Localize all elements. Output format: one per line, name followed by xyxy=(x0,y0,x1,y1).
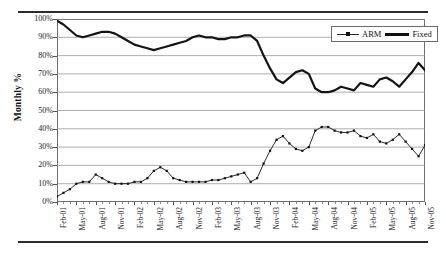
x-minor-tick-mark xyxy=(419,202,420,204)
y-tick-mark xyxy=(53,74,57,75)
x-tick-mark xyxy=(134,202,135,205)
x-minor-tick-mark xyxy=(180,202,181,204)
data-point xyxy=(385,142,387,144)
data-point xyxy=(224,177,226,179)
x-minor-tick-mark xyxy=(70,202,71,204)
data-point xyxy=(314,130,316,132)
data-point xyxy=(191,181,193,183)
data-point xyxy=(321,126,323,128)
data-point xyxy=(366,137,368,139)
x-tick-label: Nov-05 xyxy=(428,207,435,230)
legend-item-fixed[interactable]: Fixed xyxy=(385,30,431,39)
y-tick-label: 20% xyxy=(0,161,53,169)
x-minor-tick-mark xyxy=(399,202,400,204)
x-tick-label: Nov-02 xyxy=(196,207,203,230)
y-tick-label: 70% xyxy=(0,70,53,78)
x-tick-mark xyxy=(57,202,58,205)
chart-legend[interactable]: ARM Fixed xyxy=(331,26,438,42)
data-point xyxy=(133,181,135,183)
x-minor-tick-mark xyxy=(264,202,265,204)
x-minor-tick-mark xyxy=(63,202,64,204)
x-minor-tick-mark xyxy=(341,202,342,204)
x-tick-mark xyxy=(115,202,116,205)
x-tick-mark xyxy=(309,202,310,205)
fixed-line-swatch-icon xyxy=(385,33,409,36)
y-tick-mark xyxy=(53,129,57,130)
data-point xyxy=(179,179,181,181)
bottom-divider-rule xyxy=(18,241,428,243)
x-tick-label: Feb-02 xyxy=(137,207,144,228)
x-minor-tick-mark xyxy=(393,202,394,204)
x-minor-tick-mark xyxy=(186,202,187,204)
data-point xyxy=(88,181,90,183)
y-tick-label: 60% xyxy=(0,88,53,96)
data-point xyxy=(114,183,116,185)
x-minor-tick-mark xyxy=(122,202,123,204)
x-minor-tick-mark xyxy=(296,202,297,204)
x-minor-tick-mark xyxy=(315,202,316,204)
series-arm xyxy=(57,127,425,197)
x-tick-label: May-02 xyxy=(157,207,164,230)
data-point xyxy=(346,131,348,133)
legend-label-arm: ARM xyxy=(362,30,381,39)
x-minor-tick-mark xyxy=(283,202,284,204)
y-tick-mark xyxy=(53,111,57,112)
data-point xyxy=(69,188,71,190)
y-tick-mark xyxy=(53,147,57,148)
x-tick-label: Feb-05 xyxy=(370,207,377,228)
data-point xyxy=(392,139,394,141)
x-tick-mark xyxy=(367,202,368,205)
x-tick-label: Feb-03 xyxy=(215,207,222,228)
data-point xyxy=(62,192,64,194)
x-tick-mark xyxy=(328,202,329,205)
data-point xyxy=(230,175,232,177)
x-minor-tick-mark xyxy=(335,202,336,204)
data-point xyxy=(379,141,381,143)
legend-item-arm[interactable]: ARM xyxy=(337,30,381,39)
data-point xyxy=(372,133,374,135)
x-minor-tick-mark xyxy=(160,202,161,204)
x-tick-mark xyxy=(251,202,252,205)
x-tick-mark xyxy=(154,202,155,205)
x-minor-tick-mark xyxy=(412,202,413,204)
x-tick-label: Nov-03 xyxy=(273,207,280,230)
x-minor-tick-mark xyxy=(380,202,381,204)
x-tick-label: Nov-04 xyxy=(351,207,358,230)
x-tick-mark xyxy=(193,202,194,205)
x-minor-tick-mark xyxy=(205,202,206,204)
data-point xyxy=(198,181,200,183)
x-minor-tick-mark xyxy=(373,202,374,204)
x-minor-tick-mark xyxy=(354,202,355,204)
x-tick-mark xyxy=(289,202,290,205)
series-lines xyxy=(57,19,425,202)
data-point xyxy=(250,181,252,183)
data-point xyxy=(327,126,329,128)
data-point xyxy=(166,170,168,172)
x-minor-tick-mark xyxy=(360,202,361,204)
x-tick-label: Aug-02 xyxy=(176,207,183,230)
x-tick-label: May-05 xyxy=(389,207,396,230)
x-tick-mark xyxy=(406,202,407,205)
y-tick-label: 80% xyxy=(0,52,53,60)
data-point xyxy=(275,139,277,141)
x-tick-mark xyxy=(270,202,271,205)
data-point xyxy=(57,195,58,197)
y-tick-mark xyxy=(53,37,57,38)
chart-figure: Monthly % 0%10%20%30%40%50%60%70%80%90%1… xyxy=(0,0,446,254)
x-minor-tick-mark xyxy=(238,202,239,204)
plot-area xyxy=(57,19,425,202)
data-point xyxy=(301,150,303,152)
y-tick-label: 0% xyxy=(0,198,53,206)
y-tick-mark xyxy=(53,92,57,93)
data-point xyxy=(334,130,336,132)
x-tick-mark xyxy=(96,202,97,205)
x-tick-label: Aug-04 xyxy=(331,207,338,230)
x-minor-tick-mark xyxy=(128,202,129,204)
y-tick-label: 10% xyxy=(0,180,53,188)
y-tick-label: 90% xyxy=(0,33,53,41)
x-tick-mark xyxy=(212,202,213,205)
data-point xyxy=(217,179,219,181)
data-point xyxy=(424,144,425,146)
x-minor-tick-mark xyxy=(277,202,278,204)
x-minor-tick-mark xyxy=(102,202,103,204)
